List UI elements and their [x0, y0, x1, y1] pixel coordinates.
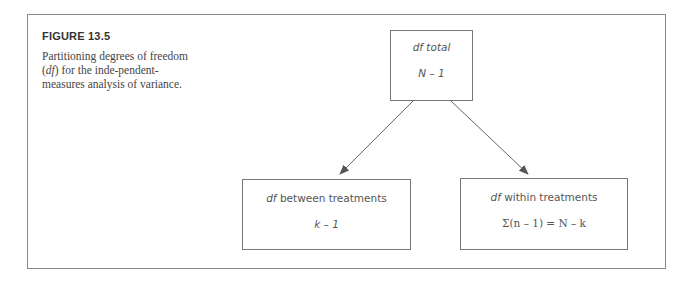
node-df-total: df total N – 1 — [390, 30, 473, 101]
node-formula: Σ(n – 1) = N – k — [461, 217, 627, 229]
node-formula: N – 1 — [391, 67, 472, 79]
node-df-within: df within treatments Σ(n – 1) = N – k — [460, 178, 628, 250]
node-title: df total — [391, 41, 472, 53]
node-df-between: df between treatments k – 1 — [242, 179, 411, 250]
node-title: df between treatments — [243, 192, 410, 204]
node-title: df within treatments — [461, 191, 627, 203]
arrow-total-to-between — [340, 101, 413, 174]
node-formula: k – 1 — [243, 218, 410, 230]
arrow-total-to-within — [451, 101, 528, 174]
